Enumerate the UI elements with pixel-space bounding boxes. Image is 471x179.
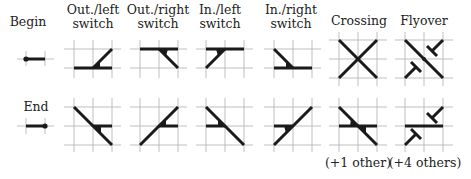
endpoint-dot-icon xyxy=(23,56,28,61)
tile-out-right-2 xyxy=(130,98,187,152)
tile-crossing-1 xyxy=(329,32,387,86)
tile-out-left-2 xyxy=(64,98,121,152)
endpoint-dot-icon xyxy=(42,123,47,128)
tile-end xyxy=(17,118,54,134)
tile-in-right-1 xyxy=(264,40,321,78)
tile-out-right-1 xyxy=(130,40,187,78)
tile-begin xyxy=(17,51,54,66)
tile-in-left-2 xyxy=(196,98,253,152)
tile-out-left-1 xyxy=(64,40,121,78)
track-tiles-diagram xyxy=(0,0,471,179)
tile-crossing-2 xyxy=(329,98,387,152)
tile-in-right-2 xyxy=(264,98,321,152)
tile-flyover-2 xyxy=(395,98,453,152)
tile-flyover-1 xyxy=(395,32,453,86)
tile-in-left-1 xyxy=(196,40,253,78)
